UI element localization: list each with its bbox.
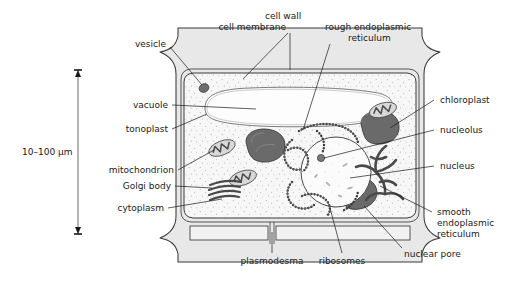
label-plasmodesma: plasmodesma [241, 256, 304, 266]
nucleus-shape [301, 137, 371, 207]
label-smooth-er-line3: reticulum [437, 229, 480, 239]
label-rough-er-line1: rough endoplasmic [325, 22, 411, 32]
label-tonoplast: tonoplast [126, 124, 169, 134]
label-cell-wall: cell wall [265, 11, 301, 21]
label-nucleus: nucleus [440, 161, 475, 171]
label-rough-er-line2: reticulum [348, 33, 391, 43]
plant-cell-figure: 10–100 μm cell membrane cell wall rough … [0, 0, 529, 290]
label-nuclear-pore: nuclear pore [404, 249, 461, 259]
label-golgi-body: Golgi body [123, 181, 172, 191]
label-vesicle: vesicle [135, 39, 167, 49]
label-chloroplast: chloroplast [440, 95, 490, 105]
label-smooth-er-line2: endoplasmic [437, 218, 494, 228]
label-cell-membrane: cell membrane [218, 22, 286, 32]
label-smooth-er-line1: smooth [437, 207, 471, 217]
label-ribosomes: ribosomes [319, 256, 366, 266]
scale-label: 10–100 μm [22, 147, 72, 157]
label-cytoplasm: cytoplasm [118, 203, 165, 213]
label-mitochondrion: mitochondrion [109, 165, 174, 175]
nucleolus-shape [317, 154, 324, 161]
label-nucleolus: nucleolus [440, 125, 483, 135]
label-vacuole: vacuole [133, 100, 169, 110]
